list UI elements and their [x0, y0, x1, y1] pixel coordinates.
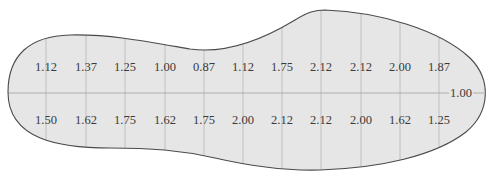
top-value-8: 2.12	[310, 61, 332, 74]
bottom-value-8: 2.12	[310, 114, 332, 127]
top-value-5: 0.87	[193, 61, 215, 74]
bottom-value-6: 2.00	[232, 114, 254, 127]
top-value-9: 2.12	[350, 61, 372, 74]
bottom-value-5: 1.75	[193, 114, 215, 127]
bottom-value-7: 2.12	[271, 114, 293, 127]
top-value-7: 1.75	[271, 61, 293, 74]
bottom-value-1: 1.50	[35, 114, 57, 127]
sole-diagram	[0, 0, 489, 178]
end-width-label: 1.00	[449, 87, 473, 100]
bottom-value-9: 2.00	[350, 114, 372, 127]
sole-shape	[8, 10, 485, 170]
bottom-value-3: 1.75	[114, 114, 136, 127]
top-value-4: 1.00	[154, 61, 176, 74]
bottom-value-11: 1.25	[428, 114, 450, 127]
top-value-6: 1.12	[232, 61, 254, 74]
top-value-1: 1.12	[35, 61, 57, 74]
bottom-value-4: 1.62	[154, 114, 176, 127]
top-value-3: 1.25	[114, 61, 136, 74]
top-value-11: 1.87	[428, 61, 450, 74]
bottom-value-2: 1.62	[75, 114, 97, 127]
top-value-10: 2.00	[389, 61, 411, 74]
top-value-2: 1.37	[75, 61, 97, 74]
bottom-value-10: 1.62	[389, 114, 411, 127]
